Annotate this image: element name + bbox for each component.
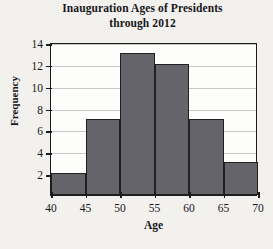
x-tick-label: 40	[45, 202, 57, 214]
y-tick-mark	[46, 153, 52, 155]
y-tick-mark	[46, 88, 52, 90]
y-tick-mark	[46, 175, 52, 177]
x-tick-label: 70	[252, 202, 264, 214]
x-tick-label: 65	[218, 202, 230, 214]
x-tick-mark	[258, 192, 260, 198]
x-tick-mark	[86, 192, 88, 198]
chart-title-line-1: Inauguration Ages of Presidents	[62, 2, 222, 14]
histogram-bar	[224, 162, 259, 195]
histogram-bar	[51, 173, 86, 195]
gridline	[51, 44, 256, 45]
chart-title-line-2: through 2012	[30, 16, 255, 31]
y-axis-label: Frequency	[8, 71, 20, 131]
x-tick-label: 60	[183, 202, 195, 214]
x-tick-mark	[155, 192, 157, 198]
x-axis-label: Age	[50, 219, 257, 231]
y-tick-label: 4	[37, 147, 43, 159]
y-tick-mark	[46, 131, 52, 133]
y-tick-mark	[46, 44, 52, 46]
x-tick-mark	[51, 192, 53, 198]
histogram-bar	[86, 119, 121, 196]
histogram-bar	[189, 119, 224, 196]
x-tick-label: 45	[80, 202, 92, 214]
y-tick-label: 2	[37, 169, 43, 181]
chart-title: Inauguration Ages of Presidents through …	[30, 1, 255, 31]
y-tick-label: 14	[32, 38, 44, 50]
histogram-bar	[155, 64, 190, 195]
x-tick-label: 50	[114, 202, 126, 214]
x-tick-mark	[224, 192, 226, 198]
y-tick-label: 6	[37, 125, 43, 137]
plot-area: 246810121440455055606570	[50, 43, 257, 196]
histogram-bar	[120, 53, 155, 195]
histogram-figure: Inauguration Ages of Presidents through …	[0, 0, 273, 249]
x-tick-mark	[189, 192, 191, 198]
x-tick-mark	[120, 192, 122, 198]
y-tick-label: 10	[32, 81, 44, 93]
y-tick-mark	[46, 110, 52, 112]
y-tick-label: 8	[37, 103, 43, 115]
x-tick-label: 55	[149, 202, 161, 214]
plot-inner: 246810121440455055606570	[51, 44, 256, 195]
y-tick-label: 12	[32, 60, 44, 72]
y-tick-mark	[46, 66, 52, 68]
